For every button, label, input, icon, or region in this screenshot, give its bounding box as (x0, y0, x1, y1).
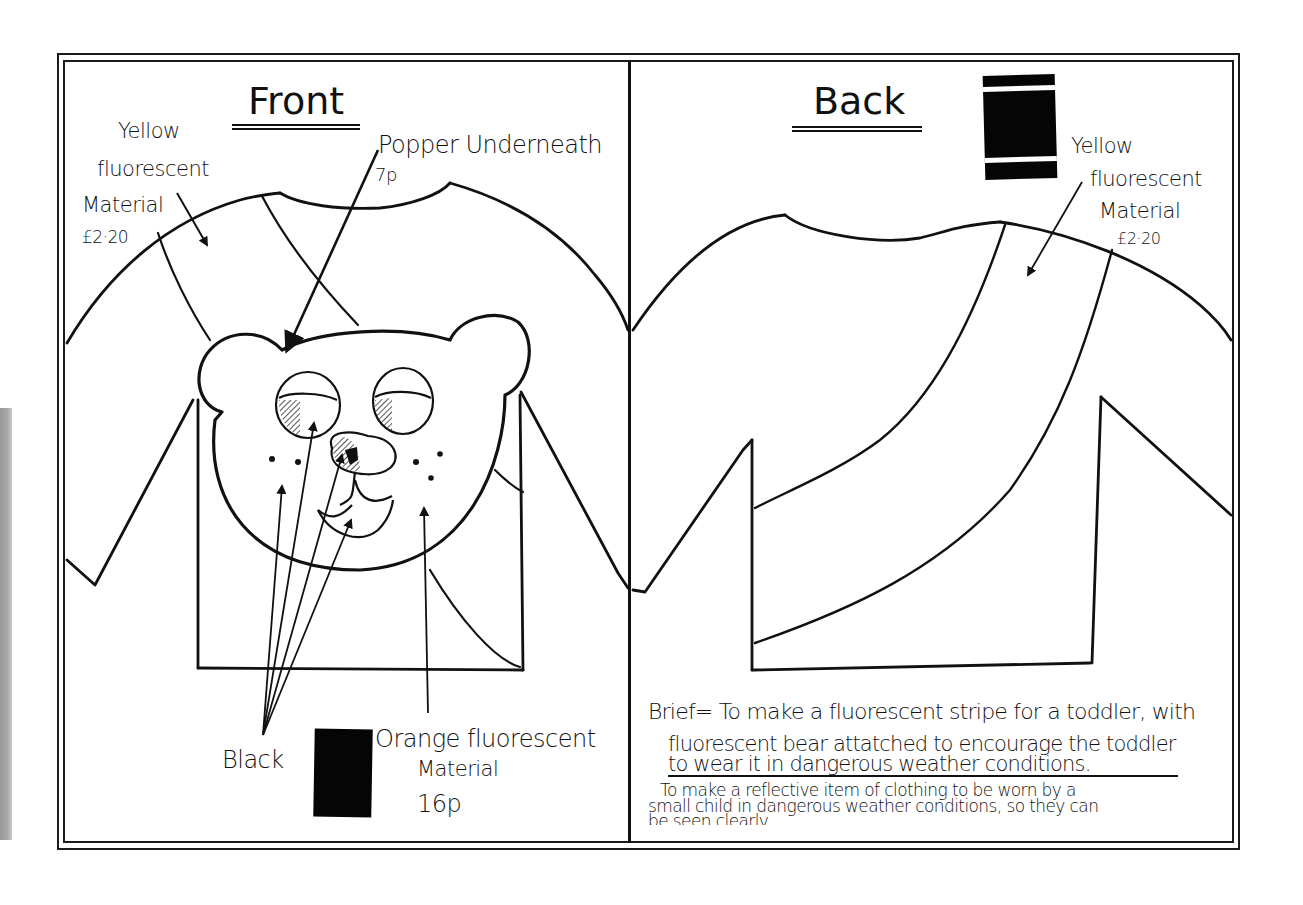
back-yellow-label-line2: fluorescent (1090, 168, 1202, 190)
front-title: Front (248, 82, 344, 122)
back-stripe-lines (755, 225, 1112, 643)
black-label: Black (222, 748, 284, 773)
orange-fluorescent-swatch (313, 729, 373, 818)
swatch-band-top (983, 85, 1055, 92)
swatch-band-bottom (985, 156, 1057, 163)
yellow-fluorescent-swatch (983, 74, 1058, 180)
front-yellow-label-line1: Yellow (118, 120, 180, 142)
back-yellow-label-line3: Material (1099, 200, 1180, 222)
front-title-underline (232, 124, 360, 130)
back-yellow-price: £2·20 (1117, 231, 1160, 248)
brief-note-line3: be seen clearly (648, 813, 768, 825)
brief-underline (668, 775, 1178, 777)
orange-label-line2: Material (417, 758, 498, 780)
back-title: Back (813, 82, 905, 122)
back-yellow-label-line1: Yellow (1071, 135, 1133, 157)
popper-label: Popper Underneath (378, 133, 602, 158)
orange-price: 16p (417, 792, 461, 817)
back-title-underline (792, 126, 922, 132)
orange-label-line1: Orange fluorescent (375, 727, 596, 752)
front-yellow-label-line2: fluorescent (97, 158, 209, 180)
brief-line3: to wear it in dangerous weather conditio… (668, 753, 1091, 775)
back-shirt-outline (633, 215, 1231, 670)
front-yellow-price: £2·20 (82, 229, 128, 247)
brief-line1: Brief= To make a fluorescent stripe for … (648, 700, 1195, 723)
front-yellow-label-line3: Material (82, 194, 163, 216)
popper-price: 7p (375, 166, 397, 185)
